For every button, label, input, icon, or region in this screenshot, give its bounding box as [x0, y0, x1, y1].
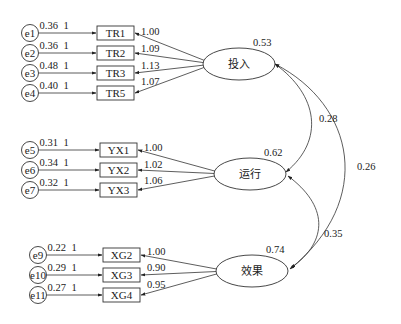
error-label: e10: [30, 269, 46, 281]
error-label: e7: [25, 184, 36, 196]
indicator-label: XG4: [111, 289, 133, 301]
error-variance: 0.48: [40, 60, 58, 71]
error-label: e3: [25, 67, 36, 79]
error-path-coef: 1: [64, 40, 69, 51]
latent-label: 运行: [239, 168, 261, 181]
error-variance: 0.22: [48, 242, 66, 253]
latent-label: 效果: [241, 264, 263, 278]
latent-label: 投入: [228, 57, 250, 71]
loading-value: 1.02: [144, 159, 162, 170]
indicator-label: YX3: [108, 184, 130, 196]
error-variance: 0.36: [40, 40, 58, 51]
error-label: e9: [33, 249, 44, 261]
latent-variance: 0.74: [266, 244, 285, 255]
error-variance: 0.32: [40, 177, 58, 188]
latent-variance: 0.53: [253, 37, 271, 48]
error-variance: 0.31: [40, 137, 58, 148]
error-variance: 0.34: [40, 157, 59, 168]
error-path-coef: 1: [64, 60, 69, 71]
error-label: e1: [25, 27, 35, 39]
covariance-value: 0.35: [324, 228, 342, 239]
indicator-label: XG3: [111, 269, 133, 281]
indicator-label: TR5: [106, 87, 126, 99]
error-variance: 0.27: [48, 282, 66, 293]
error-path-coef: 1: [72, 282, 77, 293]
error-label: e2: [25, 47, 35, 59]
error-label: e11: [30, 289, 45, 301]
loading-value: 1.09: [141, 43, 159, 54]
loading-value: 1.00: [144, 142, 162, 153]
loading-value: 1.13: [141, 60, 159, 71]
indicator-label: YX1: [108, 144, 129, 156]
indicator-label: XG2: [111, 249, 132, 261]
covariance-arrow: [288, 176, 319, 268]
loading-value: 1.00: [147, 246, 165, 257]
error-variance: 0.36: [40, 20, 58, 31]
error-path-coef: 1: [64, 137, 69, 148]
error-label: e5: [25, 144, 36, 156]
error-variance: 0.40: [40, 80, 58, 91]
loading-arrow: [138, 170, 215, 174]
loading-value: 0.95: [147, 279, 165, 290]
indicator-label: YX2: [108, 164, 129, 176]
error-label: e6: [25, 164, 36, 176]
indicator-label: TR3: [106, 67, 126, 79]
error-path-coef: 1: [72, 242, 77, 253]
error-path-coef: 1: [64, 177, 69, 188]
loading-value: 1.07: [141, 76, 159, 87]
sem-diagram: 投入0.53运行0.62效果0.74TR1e10.3611.00TR2e20.3…: [0, 0, 401, 324]
indicator-label: TR1: [106, 27, 126, 39]
loading-value: 0.90: [147, 262, 165, 273]
error-path-coef: 1: [72, 262, 77, 273]
edges-layer: [39, 33, 346, 295]
loading-value: 1.06: [144, 175, 162, 186]
error-path-coef: 1: [64, 20, 69, 31]
loading-value: 1.00: [141, 26, 159, 37]
error-label: e4: [25, 87, 36, 99]
latent-variance: 0.62: [264, 147, 282, 158]
error-path-coef: 1: [64, 157, 69, 168]
covariance-value: 0.28: [319, 113, 337, 124]
error-path-coef: 1: [64, 80, 69, 91]
covariance-value: 0.26: [357, 161, 375, 172]
error-variance: 0.29: [48, 262, 66, 273]
indicator-label: TR2: [106, 47, 126, 59]
